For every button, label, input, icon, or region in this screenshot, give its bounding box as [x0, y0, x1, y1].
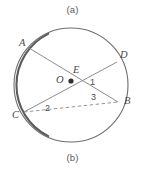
angle-label-3: 3: [91, 93, 96, 102]
point-label-b: B: [124, 96, 130, 107]
center-point-dot: [68, 78, 73, 83]
point-label-e: E: [73, 65, 79, 76]
circle-left-arc-accent: [16, 34, 48, 136]
angle-label-2: 2: [45, 104, 50, 113]
point-label-c: C: [12, 110, 19, 121]
angle-label-1: 1: [90, 78, 95, 87]
geometry-canvas: [0, 0, 145, 170]
chord-c-b-dashed: [24, 102, 118, 112]
figure-caption-bottom: (b): [0, 152, 145, 163]
geometry-figure: (a) A D E O B C 1 2 3 (b): [0, 0, 145, 170]
point-label-d: D: [120, 50, 128, 61]
chord-c-d: [24, 62, 117, 112]
circle-shape: [14, 28, 128, 142]
point-label-o: O: [56, 75, 64, 86]
point-label-a: A: [19, 38, 25, 49]
